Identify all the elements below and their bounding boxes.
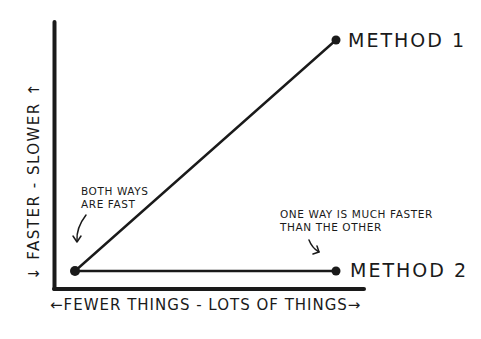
method1-label: METHOD 1 (348, 29, 466, 51)
method2-end-point (332, 267, 341, 276)
one-way-note-line2: THAN THE OTHER (280, 221, 433, 234)
x-axis-label: ←FEWER THINGS - LOTS OF THINGS→ (50, 296, 361, 314)
method1-line (75, 40, 336, 271)
both-ways-note: BOTH WAYS ARE FAST (81, 185, 149, 211)
both-ways-note-line1: BOTH WAYS (81, 185, 149, 198)
method2-label: METHOD 2 (350, 259, 468, 281)
one-way-note: ONE WAY IS MUCH FASTER THAN THE OTHER (280, 208, 433, 234)
one-way-note-line1: ONE WAY IS MUCH FASTER (280, 208, 433, 221)
method1-end-point (332, 36, 341, 45)
both-ways-arrow-icon (77, 215, 86, 241)
both-ways-note-line2: ARE FAST (81, 198, 149, 211)
origin-point (70, 266, 80, 276)
y-axis-label: ↓ FASTER - SLOWER ↑ (25, 82, 43, 280)
